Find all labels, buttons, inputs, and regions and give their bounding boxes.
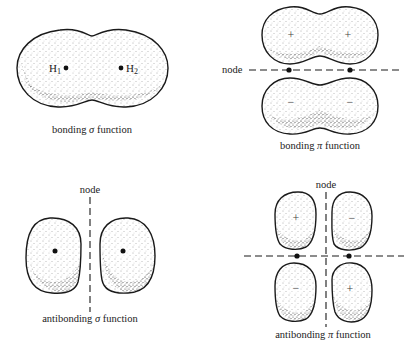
node-label: node [316,179,337,190]
panel-antibonding-sigma: node antibonding σ function [26,184,155,324]
node-label: node [222,64,243,75]
bonding-pi-lower-cloud [262,78,378,134]
nucleus-h1-dot [64,66,69,71]
panel-bonding-sigma: H1 H2 bonding σ function [17,29,168,135]
sign-plus: + [288,28,295,42]
nucleus-h2-dot [119,66,124,71]
panel-antibonding-pi: node + − − + antibonding π function [244,179,404,340]
antibonding-pi-caption: antibonding π function [275,329,371,340]
panel-bonding-pi: + + − − node bonding π function [222,7,402,151]
nucleus-dot [347,67,352,72]
sign-plus: + [345,28,352,42]
nucleus-dot [294,253,299,258]
bonding-pi-caption: bonding π function [280,140,361,151]
sign-plus: + [293,211,300,225]
sign-plus: + [347,282,354,296]
sign-minus: − [293,281,300,295]
sign-minus: − [288,95,295,109]
nucleus-dot [53,249,58,254]
nucleus-dot [121,249,126,254]
molecular-orbital-diagram: H1 H2 bonding σ function + + − − node bo… [0,0,420,350]
nucleus-dot [286,67,291,72]
nucleus-dot [346,253,351,258]
bonding-sigma-caption: bonding σ function [52,124,133,135]
node-label: node [80,184,101,195]
antibonding-sigma-caption: antibonding σ function [42,313,138,324]
sign-minus: − [347,95,354,109]
sign-minus: − [349,211,356,225]
